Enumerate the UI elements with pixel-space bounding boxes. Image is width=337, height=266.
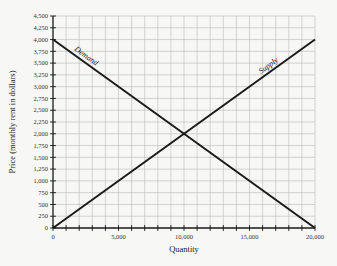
- y-tick-label: 3,000: [33, 83, 48, 90]
- y-tick-label: 2,750: [33, 95, 48, 102]
- y-axis-title: Price (monthly rent in dollars): [7, 70, 17, 173]
- y-tick-label: 4,250: [33, 24, 48, 31]
- x-axis-title: Quantity: [169, 244, 199, 254]
- supply-demand-chart: 02505007501,0001,2501,5001,7502,0002,250…: [0, 0, 337, 266]
- y-tick-label: 2,250: [33, 118, 48, 125]
- x-tick-label: 20,000: [306, 233, 324, 240]
- x-axis-ticks: 05,00010,00015,00020,000: [51, 225, 324, 240]
- y-tick-label: 3,750: [33, 48, 48, 55]
- y-tick-label: 3,250: [33, 71, 48, 78]
- y-tick-label: 0: [45, 224, 48, 231]
- x-tick-label: 5,000: [111, 233, 126, 240]
- y-tick-label: 250: [38, 212, 48, 219]
- y-tick-label: 1,750: [33, 142, 48, 149]
- y-tick-label: 1,000: [33, 177, 48, 184]
- x-tick-label: 10,000: [175, 233, 193, 240]
- grid-lines: [53, 16, 315, 228]
- y-tick-label: 500: [38, 201, 48, 208]
- y-tick-label: 1,500: [33, 154, 48, 161]
- y-tick-label: 2,000: [33, 130, 48, 137]
- y-tick-label: 1,250: [33, 165, 48, 172]
- y-tick-label: 3,500: [33, 59, 48, 66]
- y-tick-label: 2,500: [33, 106, 48, 113]
- y-tick-label: 750: [38, 189, 48, 196]
- y-tick-label: 4,500: [33, 12, 48, 19]
- y-tick-label: 4,000: [33, 36, 48, 43]
- x-tick-label: 0: [51, 233, 54, 240]
- x-tick-label: 15,000: [241, 233, 259, 240]
